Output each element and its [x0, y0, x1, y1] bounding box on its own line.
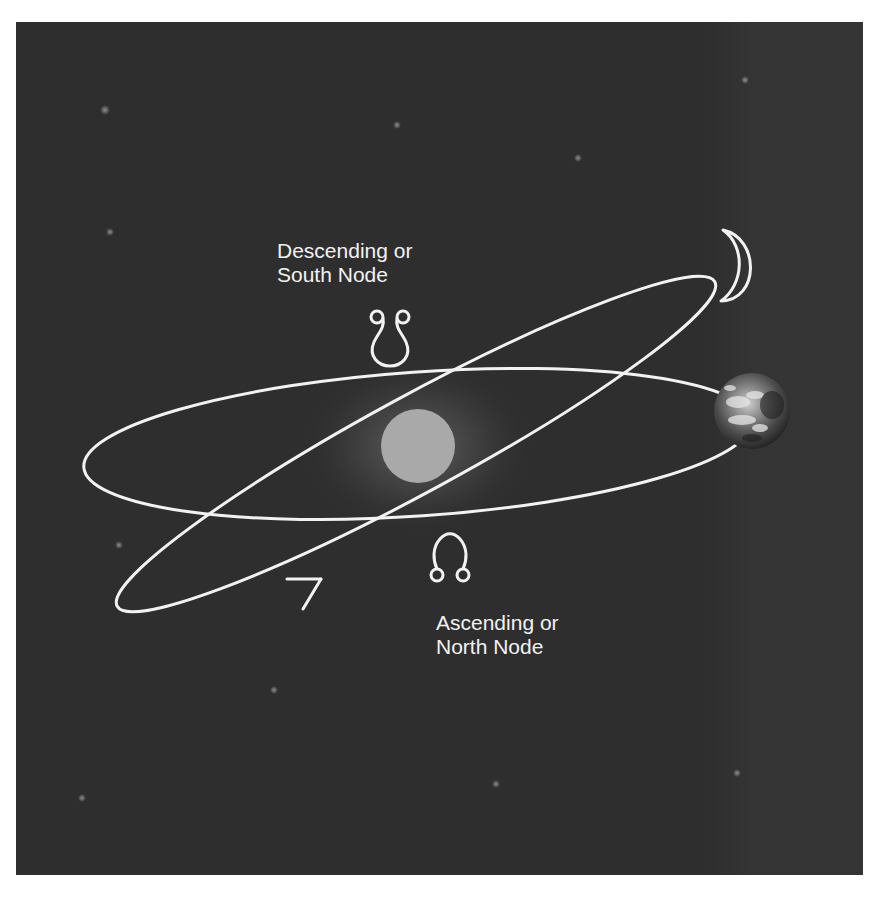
star-icon: [733, 769, 741, 777]
star-icon: [100, 105, 110, 115]
star-icon: [393, 121, 401, 129]
orbit-diagram: [0, 0, 889, 904]
star-icon: [270, 686, 278, 694]
star-icon: [492, 780, 500, 788]
earth-icon: [714, 373, 790, 449]
star-icon: [115, 541, 123, 549]
north-node-label-line1: Ascending or: [436, 611, 559, 635]
north-node-symbol-icon: [431, 534, 469, 581]
star-icon: [78, 794, 86, 802]
south-node-label-line1: Descending or: [277, 239, 412, 263]
moon-crescent-icon: [721, 230, 751, 301]
star-icon: [106, 228, 114, 236]
star-icon: [574, 154, 582, 162]
north-node-label-line2: North Node: [436, 635, 559, 659]
star-icon: [741, 76, 749, 84]
sun-icon: [381, 409, 455, 483]
north-node-label: Ascending or North Node: [436, 611, 559, 659]
south-node-label: Descending or South Node: [277, 239, 412, 287]
south-node-label-line2: South Node: [277, 263, 412, 287]
orbit-direction-arrow-icon: [287, 579, 321, 609]
